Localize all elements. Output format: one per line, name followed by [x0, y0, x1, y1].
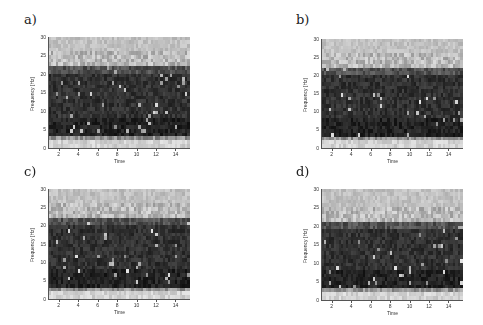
x-tick-label: 10: [131, 152, 143, 157]
x-tick-label: 12: [150, 152, 162, 157]
y-tick-label: 10: [309, 261, 319, 266]
x-tick-label: 10: [404, 152, 416, 157]
x-tick-label: 6: [92, 303, 104, 308]
x-tick-label: 4: [345, 304, 357, 309]
x-tick-label: 2: [53, 303, 65, 308]
y-tick-label: 15: [309, 242, 319, 247]
spectrogram-plot: [322, 189, 463, 300]
y-tick-label: 0: [36, 146, 46, 151]
spectrogram-heatmap: [49, 189, 190, 299]
x-tick-label: 12: [423, 304, 435, 309]
y-tick-label: 30: [36, 187, 46, 192]
panel-label: c): [24, 164, 36, 179]
x-axis-label: Time: [378, 158, 408, 164]
y-tick-label: 0: [36, 297, 46, 302]
y-tick-label: 20: [36, 223, 46, 228]
y-tick-label: 15: [36, 90, 46, 95]
spectrogram-plot: [49, 189, 190, 299]
panel-label: b): [296, 12, 309, 27]
y-tick-label: 15: [36, 242, 46, 247]
x-tick-label: 6: [365, 152, 377, 157]
x-tick-label: 14: [169, 303, 181, 308]
spectrogram-heatmap: [322, 189, 463, 300]
x-tick-label: 2: [326, 152, 338, 157]
y-axis-label: Frequency [Hz]: [302, 78, 308, 112]
spectrogram-heatmap: [49, 37, 190, 148]
x-tick-label: 4: [345, 152, 357, 157]
spectrogram-plot: [322, 39, 463, 148]
y-axis-label: Frequency [Hz]: [302, 229, 308, 263]
y-tick-label: 5: [36, 278, 46, 283]
y-tick-label: 10: [36, 109, 46, 114]
y-axis-label: Frequency [Hz]: [29, 228, 35, 262]
spectrogram-heatmap: [322, 39, 463, 148]
y-tick-label: 30: [309, 187, 319, 192]
y-axis-label: Frequency [Hz]: [29, 77, 35, 111]
x-tick-label: 2: [326, 304, 338, 309]
x-tick-label: 8: [384, 152, 396, 157]
y-tick-label: 25: [309, 55, 319, 60]
x-tick-label: 6: [365, 304, 377, 309]
x-tick-label: 8: [111, 152, 123, 157]
y-tick-label: 20: [36, 72, 46, 77]
x-axis-label: Time: [378, 310, 408, 316]
x-tick-label: 10: [404, 304, 416, 309]
x-tick-label: 14: [442, 304, 454, 309]
x-axis-label: Time: [105, 158, 135, 164]
x-axis-label: Time: [105, 309, 135, 315]
x-tick-label: 6: [92, 152, 104, 157]
x-tick-label: 14: [442, 152, 454, 157]
y-tick-label: 25: [36, 53, 46, 58]
x-tick-label: 14: [169, 152, 181, 157]
panel-label: d): [296, 164, 309, 179]
x-tick-label: 12: [423, 152, 435, 157]
x-tick-label: 4: [72, 152, 84, 157]
y-tick-label: 0: [309, 298, 319, 303]
y-tick-label: 5: [309, 279, 319, 284]
x-tick-label: 10: [131, 303, 143, 308]
y-tick-label: 0: [309, 146, 319, 151]
y-tick-label: 30: [309, 37, 319, 42]
x-tick-label: 2: [53, 152, 65, 157]
y-tick-label: 25: [309, 205, 319, 210]
x-tick-label: 8: [111, 303, 123, 308]
y-tick-label: 10: [309, 109, 319, 114]
x-tick-label: 12: [150, 303, 162, 308]
y-tick-label: 20: [309, 224, 319, 229]
y-tick-label: 25: [36, 205, 46, 210]
x-tick-label: 8: [384, 304, 396, 309]
x-tick-label: 4: [72, 303, 84, 308]
y-tick-label: 15: [309, 91, 319, 96]
y-tick-label: 20: [309, 73, 319, 78]
y-tick-label: 5: [309, 127, 319, 132]
y-tick-label: 5: [36, 127, 46, 132]
y-tick-label: 30: [36, 35, 46, 40]
y-tick-label: 10: [36, 260, 46, 265]
panel-label: a): [24, 12, 37, 27]
spectrogram-plot: [49, 37, 190, 148]
